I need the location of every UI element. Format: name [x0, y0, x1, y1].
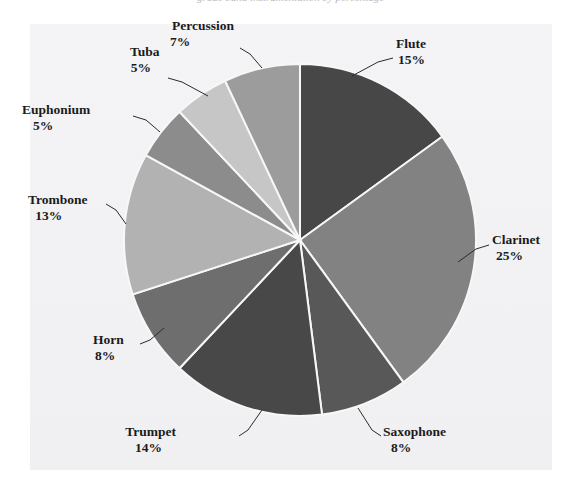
pie-label-flute-category: Flute [396, 36, 426, 52]
pie-label-tuba-value: 5% [130, 60, 160, 76]
pie-label-horn-category: Horn [93, 332, 124, 348]
leader-line-euphonium [133, 116, 160, 132]
leader-line-tuba [168, 78, 208, 96]
pie-label-euphonium: Euphonium 5% [22, 102, 90, 134]
pie-label-euphonium-category: Euphonium [22, 102, 90, 118]
pie-label-saxophone-value: 8% [383, 440, 446, 456]
pie-label-flute-value: 15% [396, 52, 426, 68]
pie-label-trombone-value: 13% [28, 208, 88, 224]
pie-slice-group [124, 64, 476, 416]
pie-label-horn-value: 8% [93, 348, 124, 364]
leader-line-saxophone [358, 408, 381, 436]
pie-label-trumpet: Trumpet 14% [125, 424, 176, 456]
leader-line-trumpet [239, 410, 262, 436]
pie-label-trumpet-category: Trumpet [125, 424, 176, 440]
pie-label-tuba: Tuba 5% [130, 44, 160, 76]
pie-label-trombone: Trombone 13% [28, 192, 88, 224]
pie-label-horn: Horn 8% [93, 332, 124, 364]
pie-label-tuba-category: Tuba [130, 44, 160, 60]
pie-chart-figure: grade band instrumentation by percentage… [0, 0, 581, 478]
pie-label-trombone-category: Trombone [28, 192, 88, 208]
leader-line-percussion [240, 48, 262, 68]
pie-label-euphonium-value: 5% [22, 118, 90, 134]
pie-label-percussion-value: 7% [170, 34, 236, 50]
leader-line-trombone [106, 204, 126, 224]
pie-label-clarinet-category: Clarinet [492, 232, 540, 248]
pie-label-saxophone: Saxophone 8% [383, 424, 446, 456]
pie-label-clarinet: Clarinet 25% [492, 232, 540, 264]
pie-label-saxophone-category: Saxophone [383, 424, 446, 440]
pie-label-flute: Flute 15% [396, 36, 426, 68]
pie-label-trumpet-value: 14% [125, 440, 176, 456]
pie-label-percussion-category: Percussion [170, 18, 236, 34]
pie-label-clarinet-value: 25% [492, 248, 540, 264]
pie-label-percussion: Percussion 7% [170, 18, 236, 50]
